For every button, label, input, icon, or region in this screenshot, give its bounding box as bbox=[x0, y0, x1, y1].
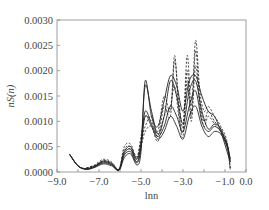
x-tick-label: −7.0 bbox=[89, 176, 108, 187]
x-tick-label: −1.0 bbox=[215, 176, 234, 187]
y-tick-label: 0.0015 bbox=[24, 91, 53, 102]
y-tick-labels: 0.00000.00050.00100.00150.00200.00250.00… bbox=[24, 15, 53, 178]
x-tick-label: −5.0 bbox=[131, 176, 150, 187]
series-line-dashed-3 bbox=[86, 65, 230, 169]
x-axis-title: lnn bbox=[145, 190, 159, 201]
y-tick-label: 0.0005 bbox=[24, 141, 53, 152]
plot-series bbox=[70, 40, 231, 171]
series-line-dashed-1 bbox=[86, 40, 230, 169]
axis-ticks bbox=[57, 20, 246, 172]
x-tick-label: 0.0 bbox=[239, 176, 252, 187]
x-tick-label: −9.0 bbox=[47, 176, 66, 187]
y-tick-label: 0.0030 bbox=[24, 15, 53, 26]
y-axis-title: nS(n) bbox=[5, 84, 17, 107]
y-tick-label: 0.0020 bbox=[24, 65, 53, 76]
series-line-dashed-2 bbox=[86, 50, 230, 170]
y-tick-label: 0.0025 bbox=[24, 40, 53, 51]
plot-frame bbox=[57, 20, 246, 172]
x-tick-label: −3.0 bbox=[173, 176, 192, 187]
series-line-solid-2 bbox=[70, 80, 231, 170]
line-chart: 0.00000.00050.00100.00150.00200.00250.00… bbox=[0, 0, 269, 210]
y-tick-label: 0.0010 bbox=[24, 116, 53, 127]
x-tick-labels: −9.0−7.0−5.0−3.0−1.00.0 bbox=[47, 176, 252, 187]
